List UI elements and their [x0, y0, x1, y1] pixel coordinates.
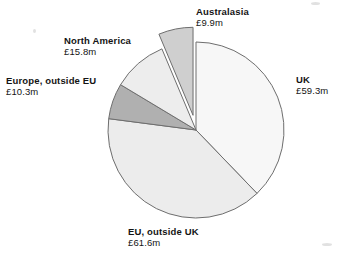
slice-label-north-america: North America £15.8m [64, 35, 131, 57]
pie-chart-canvas [0, 0, 338, 264]
slice-label-uk: UK £59.3m [296, 74, 328, 96]
slice-label-australasia-name: Australasia [196, 6, 249, 17]
slice-label-eu-outside-uk-name: EU, outside UK [128, 226, 199, 237]
slice-label-europe-outside-eu: Europe, outside EU £10.3m [6, 75, 96, 97]
scan-speck-icon [33, 29, 36, 33]
scan-speck-icon [322, 243, 332, 246]
slice-label-eu-outside-uk-value: £61.6m [128, 237, 199, 248]
slice-label-australasia: Australasia £9.9m [196, 6, 249, 28]
slice-label-uk-value: £59.3m [296, 85, 328, 96]
slice-label-eu-outside-uk: EU, outside UK £61.6m [128, 226, 199, 248]
slice-label-uk-name: UK [296, 74, 328, 85]
pie-slice-group [108, 27, 284, 218]
scan-speck-icon [311, 2, 320, 5]
slice-label-europe-outside-eu-value: £10.3m [6, 86, 96, 97]
pie-chart: Australasia £9.9m North America £15.8m E… [0, 0, 338, 264]
slice-label-australasia-value: £9.9m [196, 17, 249, 28]
slice-label-north-america-name: North America [64, 35, 131, 46]
slice-label-north-america-value: £15.8m [64, 46, 131, 57]
slice-label-europe-outside-eu-name: Europe, outside EU [6, 75, 96, 86]
